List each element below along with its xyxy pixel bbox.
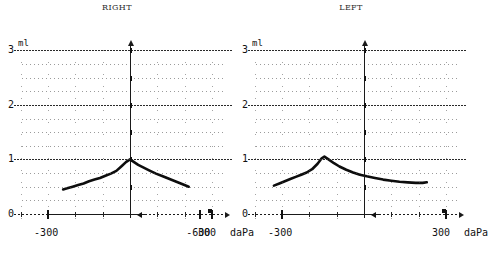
y-axis-tick-label: 2 bbox=[2, 99, 14, 110]
gridline-minor-y bbox=[256, 173, 460, 174]
gridline-minor-x bbox=[446, 50, 447, 224]
gridline-minor-y bbox=[256, 119, 460, 120]
x-axis-tick-major bbox=[281, 210, 283, 219]
sweep-direction-arrow-icon bbox=[137, 212, 142, 218]
x-axis-tick-label: -300 bbox=[34, 227, 58, 238]
gridline-minor-x bbox=[212, 50, 213, 224]
x-axis-tick-major bbox=[199, 210, 201, 219]
y-axis-tick bbox=[364, 48, 366, 53]
y-axis-tick bbox=[130, 76, 132, 81]
sweep-direction-arrow-icon bbox=[371, 212, 376, 218]
x-axis-tick-minor bbox=[255, 212, 256, 217]
gridline-minor-y bbox=[256, 200, 460, 201]
gridline-minor-y bbox=[22, 78, 226, 79]
y-axis-tick bbox=[364, 185, 366, 190]
gridline-minor-y bbox=[22, 173, 226, 174]
gridline-major-y bbox=[248, 50, 466, 51]
gridline-minor-y bbox=[22, 146, 226, 147]
x-axis-tick-minor bbox=[21, 212, 22, 217]
y-axis-tick bbox=[130, 103, 132, 108]
gridline-minor-x bbox=[75, 50, 76, 224]
y-axis-arrow-icon bbox=[128, 40, 134, 46]
y-axis-tick bbox=[364, 157, 366, 162]
x-axis-tick-minor bbox=[309, 212, 310, 217]
x-axis-tick-minor bbox=[185, 212, 186, 217]
gridline-minor-x bbox=[282, 50, 283, 224]
y-axis-tick bbox=[364, 76, 366, 81]
gridline-minor-x bbox=[391, 50, 392, 224]
y-axis-tick bbox=[130, 157, 132, 162]
panel-left-ear: LEFT 3210ml-600-300300daPa bbox=[234, 0, 468, 267]
y-axis-tick-label: 3 bbox=[236, 44, 248, 55]
gridline-major-y bbox=[14, 50, 232, 51]
gridline-major-y bbox=[14, 105, 232, 106]
gridline-minor-x bbox=[48, 50, 49, 224]
gridline-minor-x bbox=[21, 50, 22, 224]
y-axis-tick-label: 2 bbox=[236, 99, 248, 110]
gridline-minor-y bbox=[22, 64, 226, 65]
gridline-minor-y bbox=[256, 132, 460, 133]
gridline-minor-y bbox=[256, 78, 460, 79]
gridline-minor-x bbox=[103, 50, 104, 224]
y-axis-tick-label: 1 bbox=[2, 153, 14, 164]
gridline-minor-y bbox=[22, 119, 226, 120]
gridline-minor-x bbox=[337, 50, 338, 224]
x-axis-dotted-left bbox=[248, 214, 282, 215]
gridline-minor-y bbox=[22, 132, 226, 133]
gridline-minor-y bbox=[22, 91, 226, 92]
gridline-minor-y bbox=[256, 187, 460, 188]
gridline-minor-x bbox=[185, 50, 186, 224]
y-axis-unit-label: ml bbox=[18, 38, 29, 48]
y-axis-tick bbox=[364, 103, 366, 108]
x-axis-solid bbox=[48, 214, 145, 215]
x-axis-dotted-left bbox=[14, 214, 48, 215]
panel-title-right: RIGHT bbox=[0, 3, 234, 12]
gridline-minor-y bbox=[256, 64, 460, 65]
y-axis-tick bbox=[130, 48, 132, 53]
x-axis-tick-label: -600 bbox=[186, 227, 210, 238]
gridline-minor-x bbox=[157, 50, 158, 224]
x-axis-solid bbox=[282, 214, 379, 215]
x-axis-tick-minor bbox=[337, 212, 338, 217]
x-axis-tick-major bbox=[445, 210, 447, 219]
gridline-major-y bbox=[248, 105, 466, 106]
y-axis-unit-label: ml bbox=[252, 38, 263, 48]
panel-title-left: LEFT bbox=[234, 3, 468, 12]
gridline-minor-y bbox=[256, 91, 460, 92]
x-axis-tick-minor bbox=[75, 212, 76, 217]
y-axis-tick-label: 0 bbox=[236, 208, 248, 219]
y-axis-tick-label: 3 bbox=[2, 44, 14, 55]
gridline-minor-x bbox=[309, 50, 310, 224]
gridline-minor-y bbox=[22, 200, 226, 201]
gridline-minor-y bbox=[22, 187, 226, 188]
gridline-major-y bbox=[14, 159, 232, 160]
x-axis-tick-minor bbox=[103, 212, 104, 217]
x-axis-tick-minor bbox=[419, 212, 420, 217]
x-axis-tick-label: -300 bbox=[268, 227, 292, 238]
y-axis-tick-label: 1 bbox=[236, 153, 248, 164]
y-axis-tick bbox=[130, 130, 132, 135]
x-axis-tick-minor bbox=[157, 212, 158, 217]
x-axis-tick-major bbox=[47, 210, 49, 219]
gridline-minor-x bbox=[255, 50, 256, 224]
gridline-minor-x bbox=[419, 50, 420, 224]
x-axis-tick-minor bbox=[391, 212, 392, 217]
y-axis-arrow-icon bbox=[362, 40, 368, 46]
x-axis-unit-label: daPa bbox=[464, 227, 488, 238]
x-axis-tick-major bbox=[211, 210, 213, 219]
gridline-minor-y bbox=[256, 146, 460, 147]
x-axis-tick-label: 300 bbox=[432, 227, 450, 238]
y-axis-tick-label: 0 bbox=[2, 208, 14, 219]
y-axis-tick bbox=[364, 130, 366, 135]
x-axis-arrow-icon bbox=[459, 212, 464, 218]
y-axis-tick bbox=[130, 185, 132, 190]
gridline-major-y bbox=[248, 159, 466, 160]
x-axis-arrow-icon bbox=[225, 212, 230, 218]
